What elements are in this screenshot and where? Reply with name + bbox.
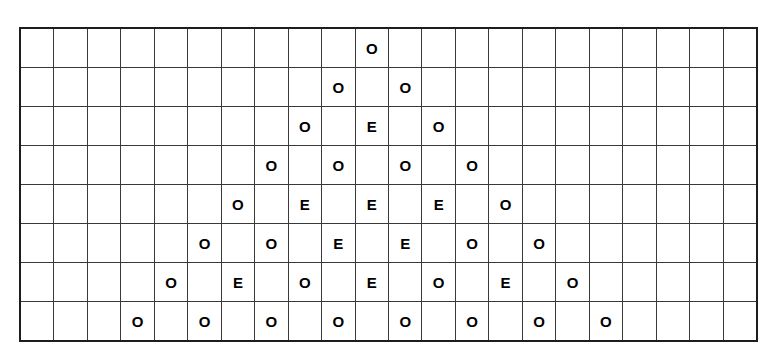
grid-cell-empty [188, 146, 221, 185]
grid-cell-empty [690, 28, 723, 68]
grid-cell-odd: O [522, 224, 555, 263]
grid-cell-empty [589, 107, 622, 146]
table-row: OEOEOEO [20, 263, 757, 302]
grid-cell-odd: O [556, 263, 589, 302]
grid-cell-empty [20, 263, 54, 302]
grid-cell-empty [54, 302, 87, 342]
grid-cell-empty [589, 185, 622, 224]
grid-cell-odd: O [422, 263, 455, 302]
grid-cell-even: E [422, 185, 455, 224]
grid-cell-empty [20, 146, 54, 185]
grid-cell-empty [455, 68, 488, 107]
grid-cell-empty [54, 185, 87, 224]
grid-cell-empty [221, 28, 254, 68]
grid-cell-empty [221, 68, 254, 107]
grid-cell-odd: O [422, 107, 455, 146]
grid-cell-empty [121, 185, 154, 224]
grid-cell-empty [20, 185, 54, 224]
grid-cell-empty [255, 263, 288, 302]
grid-cell-empty [656, 68, 689, 107]
grid-cell-odd: O [322, 146, 355, 185]
grid-cell-empty [355, 302, 388, 342]
grid-cell-empty [255, 28, 288, 68]
grid-cell-empty [54, 68, 87, 107]
grid-cell-empty [723, 146, 757, 185]
grid-cell-empty [589, 28, 622, 68]
grid-cell-empty [623, 28, 656, 68]
grid-cell-empty [589, 146, 622, 185]
grid-cell-empty [656, 263, 689, 302]
grid-cell-empty [355, 68, 388, 107]
grid-cell-empty [589, 224, 622, 263]
grid-cell-empty [255, 68, 288, 107]
grid-cell-empty [422, 302, 455, 342]
grid-cell-odd: O [288, 263, 321, 302]
grid-cell-empty [422, 68, 455, 107]
grid-cell-empty [154, 28, 187, 68]
grid-cell-odd: O [388, 146, 421, 185]
grid-cell-empty [723, 185, 757, 224]
grid-cell-empty [54, 263, 87, 302]
parity-table-body: OOOOEOOOOOOEEEOOOEEOOOEOEOEOOOOOOOOO [20, 28, 757, 341]
grid-cell-empty [188, 107, 221, 146]
grid-cell-empty [556, 185, 589, 224]
grid-cell-even: E [388, 224, 421, 263]
grid-cell-empty [489, 146, 522, 185]
grid-cell-empty [522, 263, 555, 302]
grid-cell-empty [322, 107, 355, 146]
grid-cell-empty [556, 302, 589, 342]
grid-cell-empty [355, 224, 388, 263]
grid-cell-empty [221, 146, 254, 185]
grid-cell-empty [690, 185, 723, 224]
grid-cell-empty [656, 185, 689, 224]
grid-cell-empty [522, 28, 555, 68]
grid-cell-empty [154, 107, 187, 146]
grid-cell-empty [154, 68, 187, 107]
grid-cell-empty [54, 107, 87, 146]
grid-cell-empty [221, 302, 254, 342]
grid-cell-empty [723, 224, 757, 263]
grid-cell-empty [690, 263, 723, 302]
grid-cell-empty [623, 263, 656, 302]
grid-cell-empty [556, 224, 589, 263]
grid-cell-odd: O [255, 224, 288, 263]
grid-cell-empty [589, 68, 622, 107]
grid-cell-empty [188, 185, 221, 224]
table-row: O [20, 28, 757, 68]
grid-cell-empty [20, 68, 54, 107]
grid-cell-odd: O [154, 263, 187, 302]
grid-cell-empty [690, 68, 723, 107]
grid-cell-empty [422, 28, 455, 68]
grid-cell-empty [388, 263, 421, 302]
grid-cell-empty [690, 107, 723, 146]
grid-cell-empty [87, 146, 120, 185]
grid-cell-empty [455, 28, 488, 68]
grid-cell-empty [522, 68, 555, 107]
grid-cell-empty [556, 28, 589, 68]
grid-cell-odd: O [221, 185, 254, 224]
grid-cell-odd: O [589, 302, 622, 342]
grid-cell-empty [87, 68, 120, 107]
grid-cell-empty [121, 263, 154, 302]
grid-cell-odd: O [455, 146, 488, 185]
grid-cell-empty [288, 302, 321, 342]
grid-cell-empty [87, 224, 120, 263]
grid-cell-empty [489, 68, 522, 107]
grid-cell-empty [656, 302, 689, 342]
grid-cell-empty [288, 68, 321, 107]
grid-cell-empty [522, 185, 555, 224]
grid-cell-empty [522, 146, 555, 185]
grid-cell-empty [322, 28, 355, 68]
grid-cell-odd: O [121, 302, 154, 342]
grid-cell-empty [288, 224, 321, 263]
table-row: OEO [20, 107, 757, 146]
grid-cell-empty [656, 224, 689, 263]
grid-cell-empty [422, 224, 455, 263]
grid-cell-empty [87, 185, 120, 224]
grid-cell-empty [690, 146, 723, 185]
grid-cell-empty [54, 146, 87, 185]
grid-cell-empty [288, 146, 321, 185]
grid-cell-empty [87, 263, 120, 302]
grid-cell-even: E [322, 224, 355, 263]
grid-cell-empty [154, 185, 187, 224]
